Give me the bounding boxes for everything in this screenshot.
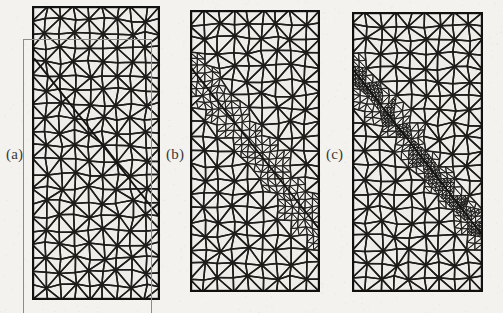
panel-label-a: (a) xyxy=(6,146,23,163)
mesh-panel-c xyxy=(352,12,483,292)
figure-root: (a) (b) (c) xyxy=(0,0,503,313)
panel-label-b: (b) xyxy=(166,146,184,163)
panel-label-c: (c) xyxy=(326,146,343,163)
mesh-panel-b xyxy=(190,10,320,292)
mesh-panel-a xyxy=(32,6,160,300)
